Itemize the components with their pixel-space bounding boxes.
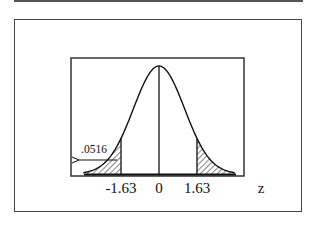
right-tail-shaded-region [197, 138, 235, 174]
tick-label-pos: 1.63 [184, 180, 210, 196]
tick-label-zero: 0 [155, 180, 163, 196]
tail-area-annotation: .0516 [81, 143, 107, 155]
tick-label-neg: -1.63 [105, 180, 136, 196]
plot-frame [71, 58, 244, 176]
axis-label-z: z [258, 180, 265, 196]
normal-curve-chart: .0516 -1.63 0 1.63 z [0, 0, 310, 229]
